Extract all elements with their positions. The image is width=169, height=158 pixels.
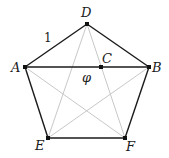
pentagon-diagram: A B C D E F 1 φ xyxy=(0,0,169,158)
edge-AD xyxy=(25,24,87,67)
label-B: B xyxy=(151,60,162,75)
label-F: F xyxy=(125,139,136,154)
label-D: D xyxy=(80,5,92,20)
diagonal-AF xyxy=(25,67,125,138)
label-A: A xyxy=(10,60,20,75)
edge-DB xyxy=(87,24,149,67)
diagonal-length-label: φ xyxy=(82,70,92,85)
diagonal-DF xyxy=(87,24,125,138)
label-C: C xyxy=(102,51,112,66)
point-D xyxy=(85,22,89,26)
edge-EA xyxy=(25,67,48,138)
side-length-label: 1 xyxy=(44,31,52,45)
diagonal-BE xyxy=(48,67,149,138)
point-A xyxy=(23,65,27,69)
point-B xyxy=(147,65,151,69)
label-E: E xyxy=(34,138,45,153)
edge-BF xyxy=(125,67,149,138)
point-E xyxy=(46,136,50,140)
